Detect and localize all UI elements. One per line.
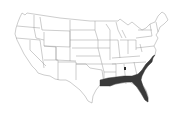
us-map bbox=[0, 0, 180, 126]
us-map-svg bbox=[0, 0, 180, 126]
us-outline bbox=[15, 12, 168, 103]
location-marker bbox=[124, 67, 126, 70]
